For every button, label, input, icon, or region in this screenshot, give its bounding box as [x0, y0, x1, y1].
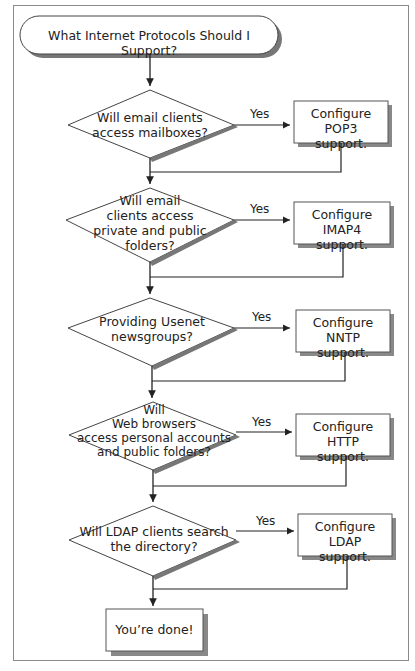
action-configure-http: Configure HTTP support. [296, 419, 390, 464]
action-text: support. [296, 345, 390, 360]
action-text: Configure HTTP [296, 419, 390, 449]
action-configure-ldap: Configure LDAP support. [298, 519, 392, 564]
end-terminal: You’re done! [106, 622, 203, 637]
decision-text: clients access [80, 208, 220, 223]
decision-text: Will email [80, 193, 220, 208]
decision-email-folders: Will email clients access private and pu… [80, 193, 220, 253]
action-text: Configure IMAP4 [294, 207, 390, 237]
action-text: support. [296, 449, 390, 464]
decision-usenet: Providing Usenet newsgroups? [80, 314, 224, 344]
decision-text: and public folders? [76, 445, 232, 459]
action-configure-nntp: Configure NNTP support. [296, 315, 390, 360]
decision-email-mailboxes: Will email clients access mailboxes? [80, 110, 220, 140]
action-text: support. [294, 237, 390, 252]
decision-text: access mailboxes? [80, 125, 220, 140]
decision-text: Will LDAP clients search [74, 524, 234, 539]
action-configure-imap4: Configure IMAP4 support. [294, 207, 390, 252]
yes-label: Yes [250, 107, 269, 121]
action-text: Configure POP3 [294, 106, 388, 136]
yes-label: Yes [252, 415, 271, 429]
yes-label: Yes [252, 310, 271, 324]
action-text: support. [294, 136, 388, 151]
decision-web-browsers: Will Web browsers access personal accoun… [76, 403, 232, 459]
decision-text: Providing Usenet [80, 314, 224, 329]
decision-text: Web browsers [76, 417, 232, 431]
yes-label: Yes [256, 514, 275, 528]
decision-text: newsgroups? [80, 329, 224, 344]
start-terminal: What Internet Protocols Should I Support… [20, 28, 278, 58]
yes-label: Yes [250, 202, 269, 216]
action-text: Configure NNTP [296, 315, 390, 345]
action-text: Configure LDAP [298, 519, 392, 549]
action-configure-pop3: Configure POP3 support. [294, 106, 388, 151]
decision-text: Will [76, 403, 232, 417]
decision-text: the directory? [74, 539, 234, 554]
decision-ldap: Will LDAP clients search the directory? [74, 524, 234, 554]
decision-text: private and public [80, 223, 220, 238]
action-text: support. [298, 549, 392, 564]
decision-text: Will email clients [80, 110, 220, 125]
decision-text: access personal accounts [76, 431, 232, 445]
decision-text: folders? [80, 238, 220, 253]
